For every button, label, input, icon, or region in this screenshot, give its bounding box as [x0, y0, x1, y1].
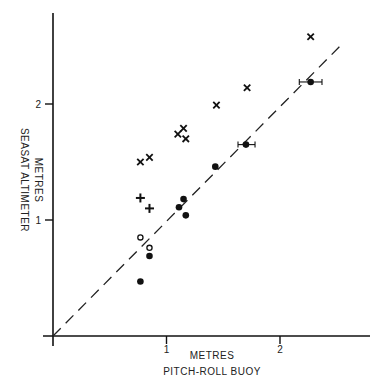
filled-circle-marker: [180, 196, 187, 203]
filled-circle-marker: [146, 253, 153, 260]
filled-circle-point-6: [238, 141, 255, 148]
filled-circle-marker: [243, 141, 250, 148]
x-tick-label-2: 2: [277, 344, 283, 355]
plus-point-0: [136, 193, 145, 202]
filled-circle-marker: [137, 278, 144, 285]
y-tick-label-2: 2: [35, 99, 41, 110]
open-circle-marker: [138, 235, 143, 240]
filled-circle-point-4: [182, 212, 189, 219]
data-points: [136, 34, 322, 285]
x-axis-title-line1: METRES: [190, 350, 235, 361]
cross-point-3: [180, 125, 186, 131]
cross-point-2: [175, 131, 181, 137]
filled-circle-marker: [307, 79, 314, 86]
filled-circle-point-7: [299, 79, 322, 86]
cross-point-0: [137, 159, 143, 165]
plus-point-1: [145, 204, 154, 213]
filled-circle-marker: [182, 212, 189, 219]
scatter-chart: 1212 METRES SEASAT ALTIMETER METRES PITC…: [0, 0, 385, 389]
y-axis-title-line2: SEASAT ALTIMETER: [19, 128, 30, 232]
filled-circle-point-1: [146, 253, 153, 260]
open-circle-marker: [147, 245, 152, 250]
cross-point-1: [146, 154, 152, 160]
x-axis-title-line2: PITCH-ROLL BUOY: [163, 366, 261, 377]
y-tick-label-1: 1: [35, 215, 41, 226]
cross-point-4: [183, 136, 189, 142]
filled-circle-marker: [212, 163, 219, 170]
x-tick-label-1: 1: [164, 344, 170, 355]
filled-circle-point-0: [137, 278, 144, 285]
x-axis-title: METRES PITCH-ROLL BUOY: [163, 350, 261, 377]
filled-circle-marker: [176, 204, 183, 211]
y-axis-title-line1: METRES: [33, 158, 44, 203]
open-circle-point-1: [147, 245, 152, 250]
cross-point-7: [307, 34, 313, 40]
filled-circle-point-3: [180, 196, 187, 203]
open-circle-point-0: [138, 235, 143, 240]
cross-point-6: [244, 85, 250, 91]
filled-circle-point-5: [212, 163, 219, 170]
reference-line-y-equals-x: [53, 45, 341, 336]
cross-point-5: [213, 102, 219, 108]
filled-circle-point-2: [176, 204, 183, 211]
